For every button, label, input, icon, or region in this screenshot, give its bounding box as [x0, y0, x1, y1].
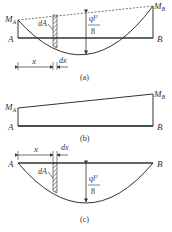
label-MB: MB	[153, 89, 166, 100]
area-element-strip	[53, 15, 57, 48]
label-8: 8	[91, 27, 95, 36]
label-B: B	[157, 159, 163, 169]
panel-a: MA MB A B dA ql2 8 x dx (a)	[4, 1, 166, 82]
dashed-chord	[18, 6, 153, 20]
panel-b: MA MB A B (b)	[4, 89, 166, 143]
label-MA: MA	[4, 102, 17, 113]
caption-b: (b)	[80, 134, 90, 143]
caption-a: (a)	[80, 73, 89, 82]
trapezoid-diagram	[18, 94, 153, 126]
dA-leader	[48, 24, 53, 30]
dA-leader	[48, 172, 53, 178]
label-MB: MB	[153, 1, 166, 12]
label-A: A	[7, 159, 14, 169]
label-ql2: ql2	[89, 174, 98, 183]
area-element-strip	[53, 163, 57, 193]
label-x: x	[33, 144, 38, 154]
label-dx: dx	[59, 56, 67, 65]
panel-c: A B dA ql2 8 x dx (c)	[7, 143, 163, 224]
label-ql2: ql2	[89, 14, 98, 23]
label-8: 8	[91, 187, 95, 196]
caption-c: (c)	[80, 215, 89, 224]
label-B: B	[157, 34, 163, 44]
label-dx: dx	[61, 143, 69, 152]
label-dA: dA	[38, 19, 47, 28]
label-dA: dA	[38, 167, 47, 176]
label-A: A	[7, 122, 14, 132]
label-A: A	[7, 34, 14, 44]
bending-moment-diagrams: MA MB A B dA ql2 8 x dx (a) MA MB A B (b…	[0, 0, 172, 232]
label-MA: MA	[4, 14, 17, 25]
label-x: x	[31, 56, 36, 66]
label-B: B	[157, 122, 163, 132]
